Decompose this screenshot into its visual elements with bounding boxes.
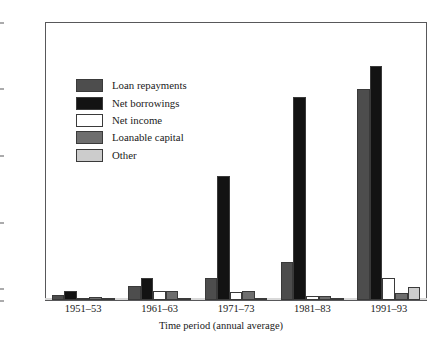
y-tick-mark (0, 22, 4, 23)
legend-item-loanable-capital: Loanable capital (76, 129, 187, 146)
bar-net-borrowings (293, 97, 306, 300)
legend-item-other: Other (76, 147, 187, 164)
legend-item-loan-repayments: Loan repayments (76, 77, 187, 94)
y-tick-mark (0, 89, 4, 90)
legend-swatch-icon (76, 131, 103, 144)
bar-net-borrowings (370, 66, 383, 300)
bar-net-income (230, 292, 243, 300)
legend-swatch-icon (76, 149, 103, 162)
chart-legend: Loan repaymentsNet borrowingsNet incomeL… (76, 77, 187, 164)
x-axis-tick-label-1961-63: 1961–63 (141, 303, 178, 314)
bar-net-income (153, 291, 166, 300)
bar-net-borrowings (141, 278, 154, 300)
x-axis-title: Time period (annual average) (0, 320, 442, 331)
x-axis-tick-label-1991-93: 1991–93 (370, 303, 407, 314)
y-tick-mark (0, 300, 4, 301)
bar-group-1981-83 (281, 22, 344, 300)
legend-item-net-borrowings: Net borrowings (76, 94, 187, 111)
bar-loanable-capital (166, 291, 179, 300)
bar-net-borrowings (64, 291, 77, 300)
legend-swatch-icon (76, 114, 103, 127)
bar-group-1971-73 (205, 22, 268, 300)
x-axis-tick-label-1971-73: 1971–73 (218, 303, 255, 314)
bar-group-1991-93 (357, 22, 420, 300)
bar-loanable-capital (395, 293, 408, 300)
y-tick-mark (0, 155, 4, 156)
x-axis-tick-label-1981-83: 1981–83 (294, 303, 331, 314)
bar-loan-repayments (128, 286, 141, 300)
legend-swatch-icon (76, 79, 103, 92)
bar-loanable-capital (242, 291, 255, 300)
chart-root: 1000140038006200860011,000 1951–531961–6… (0, 0, 442, 343)
x-axis-line (45, 300, 427, 301)
bar-net-income (382, 278, 395, 300)
y-axis: 1000140038006200860011,000 (0, 0, 45, 320)
legend-item-label: Loanable capital (112, 132, 184, 143)
bar-loan-repayments (357, 89, 370, 300)
legend-item-label: Net income (112, 115, 162, 126)
bar-other (408, 287, 421, 300)
y-tick-mark (0, 222, 4, 223)
legend-item-label: Net borrowings (112, 98, 179, 109)
legend-item-label: Loan repayments (112, 80, 187, 91)
bar-net-borrowings (217, 176, 230, 300)
bar-loan-repayments (281, 262, 294, 300)
legend-item-net-income: Net income (76, 112, 187, 129)
x-axis-tick-label-1951-53: 1951–53 (65, 303, 102, 314)
legend-item-label: Other (112, 150, 137, 161)
bar-loan-repayments (205, 278, 218, 300)
legend-swatch-icon (76, 97, 103, 110)
y-tick-mark (0, 289, 4, 290)
